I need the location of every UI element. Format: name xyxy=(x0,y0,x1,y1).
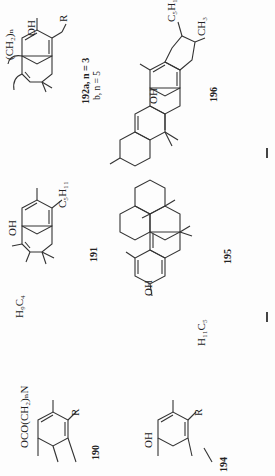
document-page: (CH₂)ₙ OH R 192a, n = 3 b, n = 5 OH C₅H₁… xyxy=(0,0,275,476)
structure-191 xyxy=(12,188,62,264)
compound-number-195: 195 xyxy=(222,249,233,264)
label-192-oh: OH xyxy=(26,20,37,36)
label-191-c5h11: C₅H₁₁ xyxy=(57,181,68,208)
structure-195 xyxy=(120,180,192,296)
compound-number-196: 196 xyxy=(208,87,219,102)
label-196-ch3: CH₃ xyxy=(196,17,207,36)
label-192-r: R xyxy=(58,15,69,22)
label-190-oco: OCO(CH₂)ₙN xyxy=(19,386,30,448)
label-196-oh: OH xyxy=(148,88,159,104)
label-194-r: R xyxy=(193,409,204,416)
label-194-oh: OH xyxy=(143,432,154,448)
structure-192 xyxy=(8,18,66,92)
compound-number-192a: 192a, n = 3 xyxy=(80,58,91,104)
label-195-h11c5: H₁₁C₅ xyxy=(196,319,207,346)
compound-number-191: 191 xyxy=(88,247,99,262)
margin-mark xyxy=(266,312,268,322)
label-196-c5h11: C₅H₁₁ xyxy=(166,0,177,22)
label-190-r: R xyxy=(70,409,81,416)
compound-number-192b: b, n = 5 xyxy=(92,71,103,100)
chemical-structures-drawing xyxy=(0,0,275,476)
compound-number-190: 190 xyxy=(90,445,101,460)
label-191-oh: OH xyxy=(7,220,18,236)
compound-number-194: 194 xyxy=(218,457,229,472)
margin-mark xyxy=(266,148,268,158)
label-195-oh: OH xyxy=(143,280,154,296)
label-191-h9c4: H₉C₄ xyxy=(14,295,25,318)
label-192-ch2n: (CH₂)ₙ xyxy=(4,29,15,60)
